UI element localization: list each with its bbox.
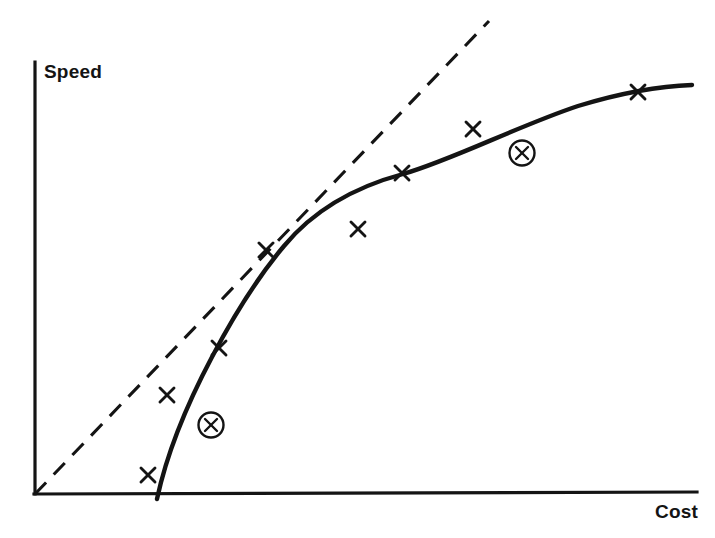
marker-x-7 bbox=[466, 122, 480, 136]
fitted-curve-group bbox=[157, 85, 692, 499]
chart-figure: Speed Cost bbox=[0, 0, 715, 538]
circled-outlier-2 bbox=[510, 141, 535, 166]
x-axis-label: Cost bbox=[655, 501, 698, 522]
fitted-curve bbox=[157, 85, 692, 499]
marker-x-1 bbox=[141, 468, 155, 482]
chart-canvas: Speed Cost bbox=[0, 0, 715, 538]
scatter-markers-group bbox=[141, 85, 645, 482]
circled-outlier-1 bbox=[199, 413, 224, 438]
marker-x-2 bbox=[160, 388, 174, 402]
x-axis-line bbox=[34, 492, 697, 494]
tangent-line bbox=[35, 21, 489, 494]
axes-group bbox=[34, 62, 697, 494]
tangent-line-group bbox=[35, 21, 489, 494]
y-axis-label: Speed bbox=[44, 61, 102, 82]
marker-x-5 bbox=[351, 222, 365, 236]
